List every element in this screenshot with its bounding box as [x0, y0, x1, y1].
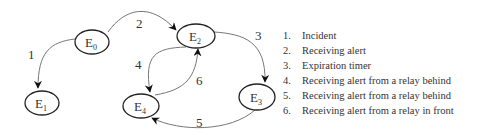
legend-item-1: 1.Incident — [283, 28, 454, 43]
legend-item-6: 6.Receiving alert from a relay in front — [283, 103, 454, 118]
edge-label-4: 4 — [135, 57, 142, 72]
node-e0: E0 — [75, 30, 109, 54]
edge-5 — [152, 110, 255, 128]
edge-label-3: 3 — [255, 28, 262, 43]
edge-4 — [148, 47, 186, 92]
edge-6 — [155, 49, 198, 95]
node-e1: E1 — [25, 91, 59, 115]
legend-item-2: 2.Receiving alert — [283, 43, 454, 58]
node-e2: E2 — [177, 24, 215, 48]
edge-label-2: 2 — [136, 16, 143, 31]
legend-item-3: 3.Expiration timer — [283, 58, 454, 73]
legend: 1.Incident 2.Receiving alert 3.Expiratio… — [283, 28, 454, 118]
node-e3: E3 — [239, 84, 275, 110]
edge-label-6: 6 — [196, 73, 203, 88]
edge-label-5: 5 — [196, 115, 203, 130]
legend-item-4: 4.Receiving alert from a relay behind — [283, 73, 454, 88]
node-e4: E4 — [123, 94, 159, 118]
edge-label-1: 1 — [28, 47, 35, 62]
legend-item-5: 5.Receiving alert from a relay behind — [283, 88, 454, 103]
edge-1 — [38, 39, 75, 88]
